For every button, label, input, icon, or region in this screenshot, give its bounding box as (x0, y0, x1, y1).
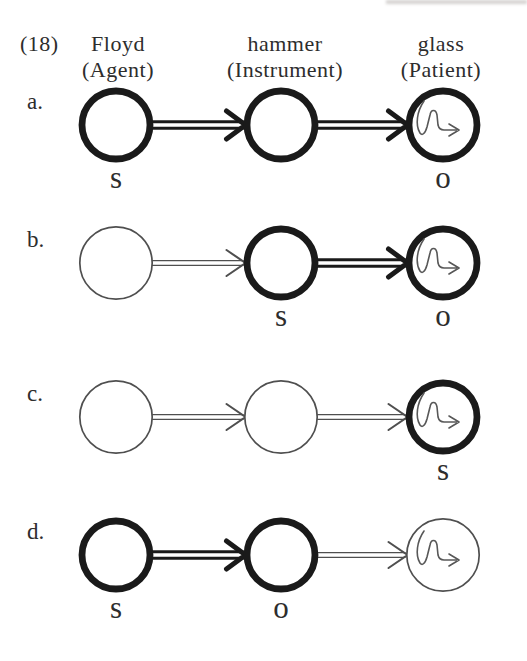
grammatical-relation-label: o (435, 160, 451, 195)
row-label: a. (27, 89, 43, 114)
row-c: c.s (27, 381, 477, 487)
circle-agent-profiled (82, 521, 150, 589)
grammatical-relation-label: s (437, 452, 449, 487)
energy-transfer-arrow (152, 111, 246, 139)
energy-transfer-arrow (317, 404, 408, 430)
energy-transfer-arrow (317, 542, 408, 568)
energy-transfer-arrow (152, 541, 246, 569)
circle-patient-profiled (409, 229, 477, 297)
grammatical-relation-label: s (110, 590, 122, 625)
arrowhead-icon (227, 250, 246, 276)
arrowhead-icon (227, 111, 246, 139)
circle-agent (80, 381, 152, 453)
circle-patient-profiled (409, 91, 477, 159)
arrowhead-icon (227, 404, 246, 430)
arrowhead-icon (227, 541, 246, 569)
row-label: d. (27, 519, 44, 544)
energy-transfer-arrow (152, 404, 246, 430)
figure-page: (18) Floyd (Agent) hammer (Instrument) g… (0, 0, 527, 661)
action-chain-diagram: a.sob.soc.sd.so (0, 0, 527, 661)
energy-transfer-arrow (152, 250, 246, 276)
row-label: c. (27, 381, 43, 406)
arrowhead-icon (389, 542, 408, 568)
energy-transfer-arrow (317, 249, 408, 277)
circle-instrument (245, 381, 317, 453)
arrowhead-icon (389, 249, 408, 277)
row-d: d.so (27, 519, 479, 625)
arrowhead-icon (389, 404, 408, 430)
row-label: b. (27, 227, 44, 252)
arrowhead-icon (389, 111, 408, 139)
circle-agent-profiled (82, 91, 150, 159)
row-b: b.so (27, 227, 477, 333)
grammatical-relation-label: s (110, 160, 122, 195)
energy-transfer-arrow (317, 111, 408, 139)
circle-instrument-profiled (247, 521, 315, 589)
grammatical-relation-label: o (273, 590, 289, 625)
grammatical-relation-label: s (275, 298, 287, 333)
grammatical-relation-label: o (435, 298, 451, 333)
circle-agent (80, 227, 152, 299)
circle-instrument-profiled (247, 91, 315, 159)
row-a: a.so (27, 89, 477, 195)
circle-patient-profiled (409, 383, 477, 451)
circle-instrument-profiled (247, 229, 315, 297)
